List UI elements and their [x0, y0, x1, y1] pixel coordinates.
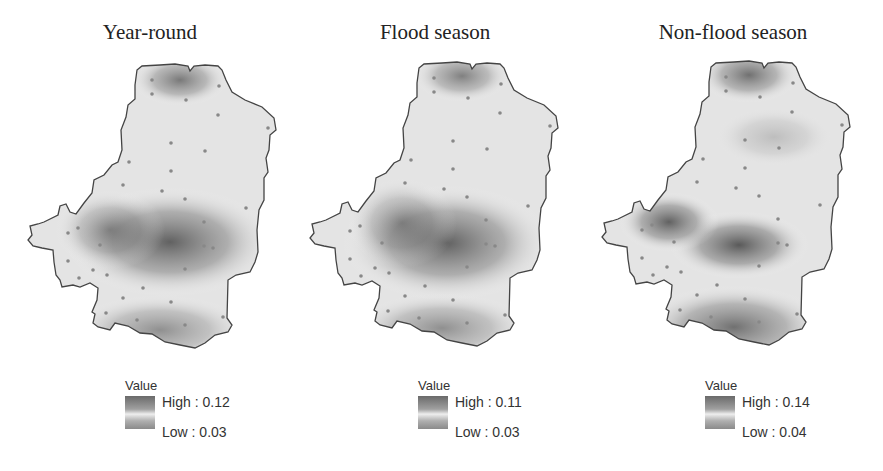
station-point: [818, 203, 822, 207]
station-point: [665, 265, 669, 269]
station-point: [484, 242, 488, 246]
station-point: [757, 264, 761, 268]
legend-gradient-swatch: [705, 396, 735, 429]
station-point: [758, 95, 762, 99]
legend-high-label: High : 0.12: [162, 394, 230, 410]
station-point: [98, 243, 102, 247]
value-shading: [619, 192, 719, 252]
station-point: [695, 180, 699, 184]
station-point: [66, 259, 70, 263]
station-point: [465, 265, 469, 269]
station-point: [432, 90, 436, 94]
station-point: [734, 186, 738, 190]
value-shading: [55, 190, 165, 270]
station-point: [202, 220, 206, 224]
value-shading: [132, 54, 228, 106]
interpolated-surface: [602, 47, 850, 369]
station-point: [465, 321, 469, 325]
station-point: [373, 266, 377, 270]
station-point: [791, 81, 795, 85]
station-point: [409, 158, 413, 162]
station-point: [183, 323, 187, 327]
station-point: [184, 98, 188, 102]
station-point: [141, 286, 145, 290]
station-point: [640, 256, 644, 260]
legend-high-label: High : 0.11: [455, 394, 522, 410]
station-point: [386, 309, 390, 313]
panel-year-round: Year-round Value High : 0.12 Low : 0.03: [0, 0, 294, 471]
legend-high-label: High : 0.14: [742, 394, 810, 410]
station-point: [451, 167, 455, 171]
panel-flood-season: Flood season Value High : 0.11 Low : 0.0…: [290, 0, 584, 471]
station-point: [169, 300, 173, 304]
station-point: [777, 146, 781, 150]
station-point: [498, 111, 502, 115]
value-shading: [70, 295, 250, 365]
station-point: [709, 315, 713, 319]
station-point: [417, 316, 421, 320]
station-point: [127, 160, 131, 164]
station-point: [451, 298, 455, 302]
station-point: [266, 126, 270, 130]
station-point: [503, 313, 507, 317]
station-point: [451, 139, 455, 143]
station-point: [651, 273, 655, 277]
value-shading: [699, 47, 799, 103]
station-point: [743, 297, 747, 301]
station-point: [442, 187, 446, 191]
station-point: [121, 296, 125, 300]
station-point: [217, 84, 221, 88]
station-point: [672, 240, 676, 244]
station-point: [701, 157, 705, 161]
station-point: [203, 149, 207, 153]
station-point: [91, 268, 95, 272]
station-point: [724, 89, 728, 93]
station-point: [348, 229, 352, 233]
station-point: [785, 243, 789, 247]
station-point: [776, 241, 780, 245]
legend-low-label: Low : 0.03: [162, 424, 227, 440]
station-point: [795, 312, 799, 316]
station-point: [695, 293, 699, 297]
legend-gradient-swatch: [418, 396, 448, 429]
station-point: [348, 257, 352, 261]
legend-low-label: Low : 0.03: [455, 424, 520, 440]
station-point: [548, 124, 552, 128]
legend-gradient-swatch: [125, 396, 155, 429]
station-point: [484, 218, 488, 222]
station-point: [485, 147, 489, 151]
legend-title: Value: [125, 378, 157, 393]
legend-title: Value: [418, 378, 450, 393]
station-point: [466, 96, 470, 100]
station-point: [183, 197, 187, 201]
station-point: [221, 315, 225, 319]
station-point: [77, 276, 81, 280]
station-point: [678, 308, 682, 312]
station-point: [121, 183, 125, 187]
station-point: [499, 82, 503, 86]
panel-non-flood-season: Non-flood season Value High : 0.14 Low :…: [580, 0, 874, 471]
interpolated-surface: [310, 50, 558, 363]
station-point: [183, 267, 187, 271]
station-point: [526, 204, 530, 208]
station-point: [169, 169, 173, 173]
station-point: [640, 228, 644, 232]
station-point: [104, 311, 108, 315]
station-point: [359, 274, 363, 278]
station-point: [465, 195, 469, 199]
station-point: [403, 294, 407, 298]
station-point: [757, 320, 761, 324]
station-point: [244, 206, 248, 210]
station-point: [150, 92, 154, 96]
legend-title: Value: [705, 378, 737, 393]
interpolated-surface: [28, 54, 276, 365]
station-point: [776, 217, 780, 221]
station-point: [493, 244, 497, 248]
station-point: [403, 181, 407, 185]
station-point: [211, 246, 215, 250]
value-shading: [414, 50, 510, 102]
station-point: [150, 78, 154, 82]
station-point: [840, 123, 844, 127]
station-point: [650, 223, 654, 227]
station-point: [105, 273, 109, 277]
